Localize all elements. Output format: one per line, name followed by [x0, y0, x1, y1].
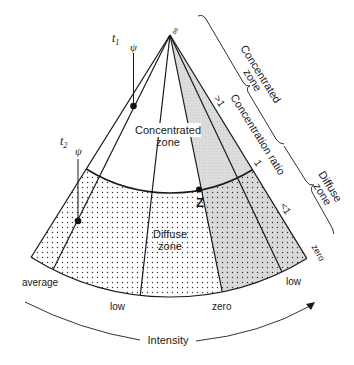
concentrated-zone-title: Concentrated	[135, 124, 201, 136]
arrowhead-icon	[306, 302, 315, 310]
t1-label: t1	[112, 31, 119, 47]
z-label: Z	[196, 195, 204, 210]
intensity-label: Intensity	[148, 334, 189, 346]
diffuse-zone-subtitle: zone	[158, 240, 182, 252]
t1-point	[130, 103, 137, 110]
t1-psi-label: ψ	[130, 41, 137, 53]
ratio-one: 1	[252, 158, 265, 169]
diffuse-zone-title: Diffuse	[153, 228, 187, 240]
diffuse-zone-region	[31, 169, 222, 297]
label-average: average	[22, 277, 59, 288]
apex-infinity-label: ∞	[169, 26, 181, 37]
concentrated-zone-subtitle: zone	[156, 136, 180, 148]
zone-diagram: ∞ t1 ψ t2 ψ Concentrated zone Diffuse zo…	[0, 0, 354, 365]
t2-psi-label: ψ	[75, 145, 82, 157]
t2-point	[75, 218, 82, 225]
label-low-left: low	[110, 301, 126, 312]
label-zero-mid: zero	[212, 301, 232, 312]
label-low-right: low	[286, 276, 302, 287]
z-point	[196, 187, 202, 193]
label-zero-right: zero	[310, 243, 327, 263]
t2-label: t2	[60, 134, 67, 150]
